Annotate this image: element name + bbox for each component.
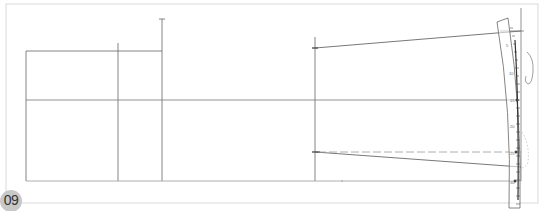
pattern-draft-diagram: 5 10 15 20 25 30: [0, 0, 542, 211]
svg-text:25: 25: [510, 151, 515, 156]
ruler-point-lower: [515, 151, 518, 154]
horizontal-guides: [26, 100, 521, 182]
lower-slope-line: [315, 152, 521, 167]
ruler-point-bottom: [514, 180, 517, 183]
step-number-badge: 09: [0, 190, 22, 211]
hand-outline-dotted: [521, 132, 528, 168]
slope-lines: [312, 31, 524, 167]
svg-text:15: 15: [510, 98, 515, 103]
hand-outline-icon: [525, 52, 533, 84]
curved-ruler: 5 10 15 20 25 30: [497, 18, 520, 208]
svg-text:20: 20: [510, 124, 515, 129]
svg-text:10: 10: [509, 71, 514, 76]
left-block: [26, 51, 162, 181]
diagram-frame: [6, 4, 538, 203]
upper-slope-line: [315, 31, 521, 48]
ruler-point-center: [516, 99, 519, 102]
curved-ruler-body: [497, 18, 520, 208]
vertical-guides: [118, 8, 521, 181]
